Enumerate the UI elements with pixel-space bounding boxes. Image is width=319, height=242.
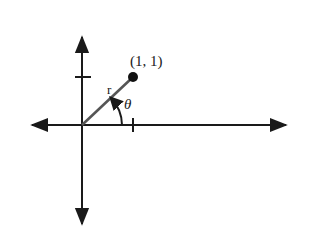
radius-label: r <box>107 82 112 97</box>
angle-label: θ <box>124 96 132 112</box>
point-marker <box>128 72 138 82</box>
point-label: (1, 1) <box>130 53 163 70</box>
angle-arc-icon <box>111 98 122 125</box>
polar-diagram: (1, 1) r θ <box>0 0 319 242</box>
